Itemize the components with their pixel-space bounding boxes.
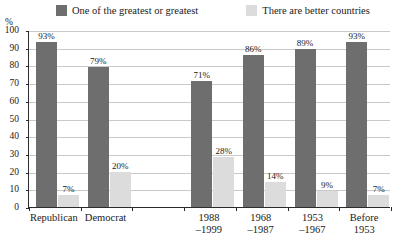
x-axis-category-label: Republican [28,212,80,224]
bar-value-label: 71% [193,71,210,80]
legend-swatch-better-countries [246,5,257,16]
bar: 89% [295,49,316,207]
bar: 28% [213,157,234,207]
x-axis-category-label: 1988–1999 [183,212,235,235]
bar: 7% [368,195,389,207]
x-axis-tick [391,207,392,211]
y-axis-tick-label: 60 [0,97,19,107]
legend-item-greatest: One of the greatest or greatest [56,5,198,16]
x-axis-category-label: Before1953 [338,212,390,235]
y-axis-tick-label: 50 [0,115,19,125]
y-axis-tick-label: 70 [0,79,19,89]
plot-area: 100908070605040302010093%7%79%20%71%28%8… [28,31,390,208]
x-axis-category-label: 1968–1987 [235,212,287,235]
bar: 71% [191,81,212,207]
bar-value-label: 79% [90,57,107,66]
bar-group: 86%14% [236,31,288,207]
x-axis-category-label: 1953–1967 [287,212,339,235]
bar-value-label: 20% [112,162,129,171]
x-axis-tick [184,207,185,211]
y-axis-tick-label: 90 [0,44,19,54]
x-axis-category-label: Democrat [80,212,132,224]
legend-label-better-countries: There are better countries [262,6,370,17]
bar: 79% [88,67,109,207]
bar-value-label: 9% [321,181,333,190]
bar-group: 89%9% [288,31,340,207]
bar-value-label: 7% [63,185,75,194]
bar-value-label: 89% [297,39,314,48]
x-axis-tick [236,207,237,211]
legend-item-better-countries: There are better countries [246,5,370,16]
legend-swatch-greatest [56,5,67,16]
bar-value-label: 28% [215,147,232,156]
x-axis-tick [288,207,289,211]
bar-value-label: 93% [38,32,55,41]
bar-group: 71%28% [184,31,236,207]
bar-chart: One of the greatest or greatest There ar… [0,0,396,244]
y-axis-tick-label: 80 [0,62,19,72]
bar-value-label: 93% [349,32,366,41]
bar-value-label: 86% [245,45,262,54]
y-axis-tick-label: 0 [0,203,19,213]
y-axis-tick-label: 10 [0,186,19,196]
bar: 86% [243,55,264,207]
y-axis-tick-label: 100 [0,26,19,36]
x-axis-tick [339,207,340,211]
bar: 9% [317,191,338,207]
bar-value-label: 7% [373,185,385,194]
bar: 7% [58,195,79,207]
bar: 93% [346,42,367,207]
bar-group: 79%20% [81,31,133,207]
x-axis-tick [29,207,30,211]
bar-group: 93%7% [29,31,81,207]
y-axis-tick-label: 30 [0,150,19,160]
x-axis-tick [132,207,133,211]
y-axis-tick-label: 20 [0,168,19,178]
bar-group: 93%7% [339,31,391,207]
chart-legend: One of the greatest or greatest There ar… [56,5,370,16]
bar: 93% [36,42,57,207]
y-axis-tick-label: 40 [0,132,19,142]
bar-value-label: 14% [267,172,284,181]
bar: 20% [110,172,131,207]
bar: 14% [265,182,286,207]
legend-label-greatest: One of the greatest or greatest [72,6,198,17]
x-axis-tick [81,207,82,211]
bar-group [132,31,184,207]
